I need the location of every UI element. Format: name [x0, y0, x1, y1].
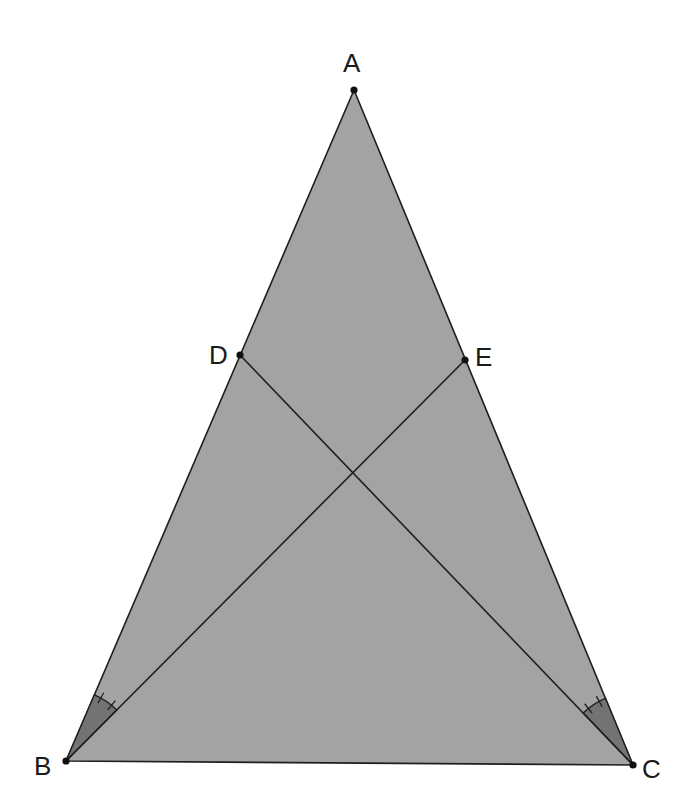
triangle-abc-fill [66, 90, 633, 765]
label-b: B [34, 751, 51, 781]
triangle-diagram: A B C D E [0, 0, 700, 809]
label-c: C [642, 754, 661, 784]
point-c [629, 761, 636, 768]
label-a: A [343, 48, 361, 78]
point-d [236, 351, 243, 358]
point-e [461, 356, 468, 363]
label-e: E [475, 342, 492, 372]
point-a [350, 86, 357, 93]
point-b [62, 757, 69, 764]
label-d: D [209, 340, 228, 370]
